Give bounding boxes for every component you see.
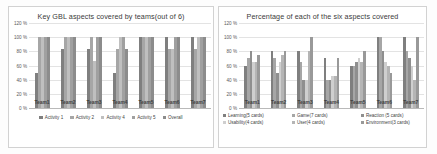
legend-item[interactable]: Activity 4: [101, 115, 125, 120]
legend-swatch-icon: [292, 114, 295, 117]
bar-group: [324, 23, 340, 108]
x-tick-label: Team5: [350, 100, 365, 105]
bar-group: [61, 23, 76, 108]
y-tick-label: 0 %: [19, 106, 27, 111]
chart-title-right: Percentage of each of the six aspects co…: [219, 7, 426, 21]
y-tick-label: 20 %: [17, 91, 27, 96]
chart-panel-right: Percentage of each of the six aspects co…: [218, 6, 427, 148]
y-tick-label: 40 %: [17, 77, 27, 82]
legend-label: Activity 2: [76, 115, 94, 120]
legend-item[interactable]: Activity 1: [39, 115, 63, 120]
y-tick-label: 60 %: [17, 63, 27, 68]
bar: [203, 37, 206, 108]
y-tick-label: 100 %: [224, 35, 237, 40]
legend-swatch-icon: [292, 121, 295, 124]
y-axis-left: 120 % 100 % 80 % 60 % 40 % 20 % 0 %: [9, 23, 29, 108]
bar: [416, 37, 419, 108]
legend-item[interactable]: Environment(3 cards): [361, 120, 423, 125]
x-tick-label: Team7: [403, 100, 418, 105]
bar: [177, 37, 180, 108]
legend-item[interactable]: User(4 cards): [292, 120, 354, 125]
legend-item[interactable]: Learning(5 cards): [223, 113, 285, 118]
legend-item[interactable]: Usability(4 cards): [223, 120, 285, 125]
x-tick-label: Team2: [271, 100, 286, 105]
legend-label: Reaction (5 cards): [366, 113, 404, 118]
x-axis-left: Team1Team2Team3Team4Team5Team6Team7: [29, 100, 211, 105]
legend-swatch-icon: [361, 114, 364, 117]
bar: [151, 37, 154, 108]
legend-swatch-icon: [132, 116, 135, 119]
y-tick-label: 80 %: [227, 49, 237, 54]
bar: [47, 37, 50, 108]
y-tick-label: 40 %: [227, 77, 237, 82]
legend-label: Overall: [168, 115, 183, 120]
y-tick-label: 60 %: [227, 63, 237, 68]
bar-groups-right: [239, 23, 424, 108]
x-axis-right: Team1Team2Team3Team4Team5Team6Team7: [239, 100, 424, 105]
figure-container: Key GBL aspects covered by teams(out of …: [0, 0, 437, 154]
bar: [99, 37, 102, 108]
x-tick-label: Team6: [377, 100, 392, 105]
bar-group: [165, 23, 180, 108]
y-tick-label: 120 %: [14, 21, 27, 26]
plot-area-left: 120 % 100 % 80 % 60 % 40 % 20 % 0 %: [9, 23, 213, 108]
legend-left: Activity 1Activity 2Activity 4Activity 5…: [9, 115, 213, 120]
bar-group: [403, 23, 419, 108]
chart-panel-left: Key GBL aspects covered by teams(out of …: [8, 6, 214, 148]
bar-group: [350, 23, 366, 108]
legend-swatch-icon: [70, 116, 73, 119]
legend-item[interactable]: Reaction (5 cards): [361, 113, 423, 118]
x-tick-label: Team4: [112, 100, 127, 105]
bar-group: [113, 23, 128, 108]
bar-group: [139, 23, 154, 108]
y-tick-label: 80 %: [17, 49, 27, 54]
x-tick-label: Team1: [34, 100, 49, 105]
legend-label: Learning(5 cards): [228, 113, 264, 118]
bar-group: [35, 23, 50, 108]
legend-label: Activity 1: [45, 115, 63, 120]
legend-swatch-icon: [223, 121, 226, 124]
legend-item[interactable]: Activity 5: [132, 115, 156, 120]
legend-label: User(4 cards): [297, 120, 325, 125]
x-tick-label: Team3: [297, 100, 312, 105]
legend-swatch-icon: [223, 114, 226, 117]
bar-group: [271, 23, 287, 108]
y-tick-label: 120 %: [224, 21, 237, 26]
legend-label: Game(7 cards): [297, 113, 328, 118]
chart-title-left: Key GBL aspects covered by teams(out of …: [9, 7, 213, 21]
legend-item[interactable]: Activity 2: [70, 115, 94, 120]
x-tick-label: Team4: [324, 100, 339, 105]
x-tick-label: Team7: [190, 100, 205, 105]
legend-item[interactable]: Overall: [163, 115, 183, 120]
bar: [73, 37, 76, 108]
bar-group: [377, 23, 393, 108]
legend-label: Activity 5: [137, 115, 155, 120]
bar-groups-left: [29, 23, 211, 108]
legend-label: Activity 4: [106, 115, 124, 120]
legend-swatch-icon: [101, 116, 104, 119]
bar-group: [191, 23, 206, 108]
bar-group: [87, 23, 102, 108]
legend-swatch-icon: [361, 121, 364, 124]
legend-label: Usability(4 cards): [228, 120, 263, 125]
bar: [310, 37, 313, 108]
y-axis-right: 120 % 100 % 80 % 60 % 40 % 20 % 0 %: [219, 23, 239, 108]
x-tick-label: Team1: [245, 100, 260, 105]
x-tick-label: Team5: [138, 100, 153, 105]
legend-item[interactable]: Game(7 cards): [292, 113, 354, 118]
y-tick-label: 0 %: [229, 106, 237, 111]
bar-group: [244, 23, 260, 108]
bar-group: [297, 23, 313, 108]
legend-label: Environment(3 cards): [366, 120, 410, 125]
plot-area-right: 120 % 100 % 80 % 60 % 40 % 20 % 0 %: [219, 23, 426, 108]
x-tick-label: Team6: [164, 100, 179, 105]
y-tick-label: 100 %: [14, 35, 27, 40]
legend-swatch-icon: [163, 116, 166, 119]
legend-swatch-icon: [39, 116, 42, 119]
x-tick-label: Team2: [60, 100, 75, 105]
legend-right: Learning(5 cards)Game(7 cards)Reaction (…: [219, 113, 426, 125]
y-tick-label: 20 %: [227, 91, 237, 96]
x-tick-label: Team3: [86, 100, 101, 105]
